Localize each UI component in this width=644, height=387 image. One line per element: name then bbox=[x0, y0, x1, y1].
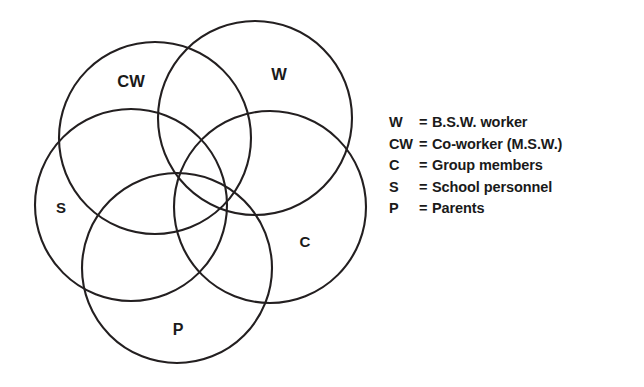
legend-equals-s: = bbox=[419, 179, 432, 195]
venn-diagram-svg: CW W S C P bbox=[0, 0, 390, 387]
legend-item-c: C = Group members bbox=[389, 157, 639, 179]
legend-key-cw: CW bbox=[389, 136, 419, 152]
venn-circle-cw[interactable] bbox=[59, 42, 251, 234]
legend: W = B.S.W. worker CW = Co-worker (M.S.W.… bbox=[389, 114, 639, 222]
venn-label-p: P bbox=[173, 321, 184, 338]
legend-description-w: B.S.W. worker bbox=[432, 114, 527, 130]
legend-equals-w: = bbox=[419, 114, 432, 130]
legend-item-p: P = Parents bbox=[389, 200, 639, 222]
venn-diagram: CW W S C P bbox=[0, 0, 390, 387]
legend-key-s: S bbox=[389, 179, 419, 195]
venn-circle-w[interactable] bbox=[158, 21, 352, 215]
legend-key-c: C bbox=[389, 157, 419, 173]
legend-equals-cw: = bbox=[419, 136, 432, 152]
legend-description-cw: Co-worker (M.S.W.) bbox=[432, 136, 562, 152]
legend-description-s: School personnel bbox=[432, 179, 552, 195]
legend-equals-c: = bbox=[419, 157, 432, 173]
legend-description-c: Group members bbox=[432, 157, 543, 173]
diagram-page: CW W S C P W = B.S.W. worker CW = Co-wor… bbox=[0, 0, 644, 387]
venn-label-c: C bbox=[300, 233, 311, 250]
venn-label-w: W bbox=[271, 65, 287, 83]
legend-equals-p: = bbox=[419, 200, 432, 216]
venn-circle-c[interactable] bbox=[174, 111, 366, 303]
legend-item-s: S = School personnel bbox=[389, 179, 639, 201]
venn-label-cw: CW bbox=[117, 72, 145, 90]
legend-key-w: W bbox=[389, 114, 419, 130]
venn-label-s: S bbox=[56, 199, 66, 216]
legend-description-p: Parents bbox=[432, 200, 485, 216]
legend-item-w: W = B.S.W. worker bbox=[389, 114, 639, 136]
legend-key-p: P bbox=[389, 200, 419, 216]
legend-item-cw: CW = Co-worker (M.S.W.) bbox=[389, 136, 639, 158]
